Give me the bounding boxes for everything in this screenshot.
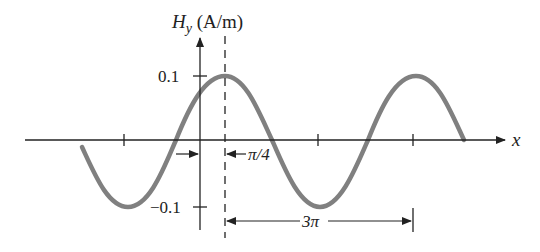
phase-shift-label: π/4 — [248, 145, 270, 164]
y-tick-label-neg: −0.1 — [150, 198, 181, 217]
waveform-figure: Hy (A/m) x 0.1 −0.1 π/4 3π — [0, 0, 540, 252]
x-axis-label: x — [511, 129, 521, 150]
y-tick-label-pos: 0.1 — [158, 67, 179, 86]
wavelength-label: 3π — [301, 212, 320, 231]
y-axis-label: Hy (A/m) — [171, 11, 243, 36]
hy-waveform-curve — [82, 76, 464, 207]
